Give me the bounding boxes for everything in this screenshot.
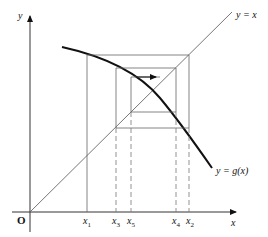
tick-x5: x5: [127, 216, 135, 229]
origin-label: O: [17, 214, 26, 226]
g-curve-label: y = g(x): [216, 166, 248, 176]
tick-x3: x3: [112, 216, 120, 229]
identity-line-label: y = x: [236, 10, 257, 20]
tick-x4: x4: [172, 216, 180, 229]
g-curve: [62, 47, 212, 168]
tick-x2: x2: [186, 216, 194, 229]
cobweb-diagram: [0, 0, 268, 237]
tick-x1: x1: [83, 216, 91, 229]
x-axis-label: x: [231, 218, 235, 228]
y-axis-label: y: [18, 11, 22, 21]
